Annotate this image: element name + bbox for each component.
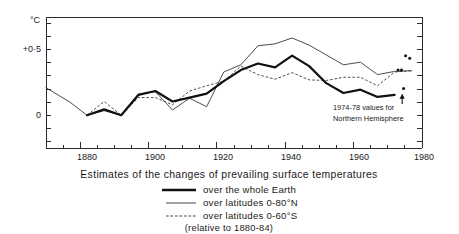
x-ticklabel-1920: 1920	[213, 152, 233, 162]
chart-caption: Estimates of the changes of prevailing s…	[80, 169, 377, 180]
axis-frame	[46, 17, 422, 148]
y-ticklabel-half: +0·5	[23, 44, 41, 54]
temperature-anomaly-chart: °C +0·5 0 1880 1900 1920 1940 1960 1980 …	[0, 0, 459, 234]
y-ticklabel-zero: 0	[36, 110, 41, 120]
y-tick-marks	[46, 24, 422, 142]
figure-root: °C +0·5 0 1880 1900 1920 1940 1960 1980 …	[0, 0, 459, 234]
legend-baseline-note: (relative to 1880-84)	[185, 223, 273, 233]
annotation-line-1: 1974-78 values for	[333, 103, 395, 112]
x-ticklabel-1880: 1880	[77, 152, 97, 162]
scatter-points-1974-78	[397, 54, 412, 90]
legend-label-latitudes-0-80N: over latitudes 0-80°N	[203, 197, 298, 208]
legend-label-latitudes-0-60S: over latitudes 0-60°S	[203, 210, 297, 221]
legend-label-whole-earth: over the whole Earth	[203, 184, 296, 195]
annotation-arrow	[400, 94, 405, 104]
x-ticklabel-1980: 1980	[414, 152, 434, 162]
x-ticklabel-1960: 1960	[349, 152, 369, 162]
y-axis-unit-label: °C	[30, 15, 41, 25]
annotation-line-2: Northern Hemisphere	[333, 114, 404, 123]
x-ticklabel-1900: 1900	[145, 152, 165, 162]
x-ticklabel-1940: 1940	[281, 152, 301, 162]
chart-legend: over the whole Earth over latitudes 0-80…	[162, 184, 298, 233]
x-tick-marks	[46, 142, 422, 148]
